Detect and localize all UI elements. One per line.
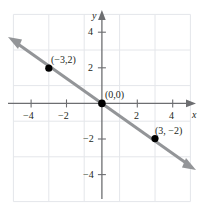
coordinate-plane [0,0,204,207]
point-origin [98,100,106,108]
point-label-origin: (0,0) [105,90,124,100]
y-tick-label-neg2: −2 [83,134,94,144]
point-neg3-2 [45,65,52,72]
x-tick-label-neg4: −4 [23,111,34,121]
y-axis-label: y [92,11,96,21]
point-label-3-neg2: (3, −2) [155,126,182,136]
y-tick-label-2: 2 [88,63,93,73]
point-3-neg2 [151,135,158,142]
x-tick-label-neg2: −2 [58,111,69,121]
x-tick-label-4: 4 [169,111,174,121]
y-tick-label-4: 4 [88,27,93,37]
y-tick-label-neg4: −4 [83,170,94,180]
x-tick-label-2: 2 [134,111,139,121]
graph-figure: x y −4 −2 2 4 4 2 −2 −4 (−3,2) (0,0) (3,… [0,0,204,207]
x-axis-label: x [192,110,196,120]
point-label-neg3-2: (−3,2) [51,55,76,65]
